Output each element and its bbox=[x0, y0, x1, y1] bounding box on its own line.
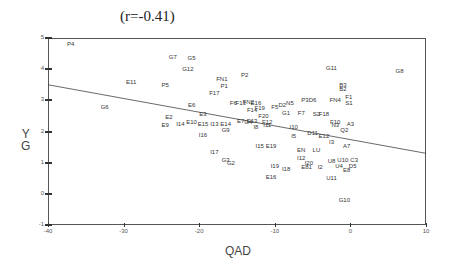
data-point-label: E16 bbox=[266, 174, 277, 180]
y-tick-mark bbox=[45, 131, 52, 133]
data-point-label: I14 bbox=[176, 121, 184, 127]
x-tick-mark bbox=[48, 223, 49, 227]
x-tick-mark bbox=[124, 223, 125, 227]
data-point-label: F18 bbox=[319, 111, 329, 117]
data-point-label: G7 bbox=[169, 54, 177, 60]
data-point-label: FN4 bbox=[330, 97, 341, 103]
data-point-label: U4 bbox=[335, 163, 343, 169]
x-tick-mark bbox=[350, 223, 351, 227]
data-point-label: F7 bbox=[298, 110, 305, 116]
y-tick-label: 0 bbox=[34, 190, 44, 196]
data-point-label: I17 bbox=[210, 149, 218, 155]
y-tick-label: 1 bbox=[34, 159, 44, 165]
y-tick-mark bbox=[45, 193, 52, 195]
x-tick-label: 10 bbox=[416, 228, 436, 234]
data-point-label: I18 bbox=[282, 166, 290, 172]
data-point-label: N5 bbox=[286, 100, 294, 106]
data-point-label: F10 bbox=[330, 119, 340, 125]
y-tick-label: 2 bbox=[34, 128, 44, 134]
data-point-label: E13 bbox=[247, 118, 258, 124]
data-point-label: I16 bbox=[199, 132, 207, 138]
data-point-label: E10 bbox=[186, 119, 197, 125]
data-point-label: E2 bbox=[165, 114, 172, 120]
data-point-label: I5 bbox=[291, 133, 296, 139]
data-point-label: U10 bbox=[337, 157, 348, 163]
y-tick-label: -1 bbox=[34, 221, 44, 227]
data-point-label: G11 bbox=[326, 65, 337, 71]
data-point-label: I3 bbox=[329, 139, 334, 145]
data-point-label: E3 bbox=[199, 111, 206, 117]
y-tick-label: 3 bbox=[34, 96, 44, 102]
data-point-label: I8 bbox=[253, 124, 258, 130]
data-point-label: E6 bbox=[188, 102, 195, 108]
x-tick-label: -10 bbox=[265, 228, 285, 234]
data-point-label: I13 bbox=[210, 121, 218, 127]
data-point-label: E19 bbox=[266, 143, 277, 149]
data-point-label: P1 bbox=[220, 83, 227, 89]
data-point-label: LU bbox=[313, 147, 321, 153]
data-point-label: F1 bbox=[345, 94, 352, 100]
data-point-label: G6 bbox=[101, 104, 109, 110]
data-point-label: A3 bbox=[347, 121, 354, 127]
data-point-label: P3 bbox=[301, 97, 308, 103]
data-point-label: E12 bbox=[319, 133, 330, 139]
data-point-label: G10 bbox=[339, 197, 350, 203]
data-point-label: F5 bbox=[271, 104, 278, 110]
data-point-label: G5 bbox=[188, 55, 196, 61]
regression-line bbox=[0, 0, 450, 267]
y-tick-mark bbox=[45, 99, 52, 101]
y-tick-label: 4 bbox=[34, 65, 44, 71]
data-point-label: E14 bbox=[220, 121, 231, 127]
data-point-label: A7 bbox=[343, 143, 350, 149]
data-point-label: FN1 bbox=[216, 76, 227, 82]
x-tick-label: -30 bbox=[114, 228, 134, 234]
data-point-label: U11 bbox=[326, 175, 337, 181]
data-point-label: E8 bbox=[343, 167, 350, 173]
y-tick-mark bbox=[45, 68, 52, 70]
data-point-label: E11 bbox=[126, 79, 136, 85]
data-point-label: B2 bbox=[339, 86, 346, 92]
x-tick-label: -40 bbox=[38, 228, 58, 234]
x-tick-label: 0 bbox=[340, 228, 360, 234]
data-point-label: F20 bbox=[258, 113, 268, 119]
data-point-label: D11 bbox=[307, 130, 318, 136]
data-point-label: I19 bbox=[271, 163, 279, 169]
y-tick-mark bbox=[45, 162, 52, 164]
data-point-label: E9 bbox=[162, 122, 169, 128]
data-point-label: I2 bbox=[318, 164, 323, 170]
data-point-label: C3 bbox=[350, 157, 358, 163]
x-tick-mark bbox=[426, 223, 427, 227]
data-point-label: F19 bbox=[255, 105, 265, 111]
x-tick-label: -20 bbox=[189, 228, 209, 234]
data-point-label: P2 bbox=[241, 72, 248, 78]
data-point-label: Q2 bbox=[340, 127, 348, 133]
data-point-label: I11 bbox=[263, 122, 271, 128]
y-tick-mark bbox=[45, 37, 52, 39]
data-point-label: S1 bbox=[345, 100, 352, 106]
data-point-label: G12 bbox=[182, 66, 193, 72]
data-point-label: D2 bbox=[279, 102, 287, 108]
data-point-label: D6 bbox=[309, 97, 317, 103]
data-point-label: G2 bbox=[227, 160, 235, 166]
x-tick-mark bbox=[275, 223, 276, 227]
data-point-label: P4 bbox=[67, 41, 74, 47]
data-point-label: G9 bbox=[222, 127, 230, 133]
data-point-label: F17 bbox=[209, 90, 219, 96]
data-point-label: G1 bbox=[282, 110, 290, 116]
data-point-label: P5 bbox=[162, 82, 169, 88]
y-tick-label: 5 bbox=[34, 34, 44, 40]
data-point-label: I15 bbox=[256, 143, 264, 149]
data-point-label: EN bbox=[297, 147, 305, 153]
data-point-label: U8 bbox=[328, 158, 336, 164]
data-point-label: G8 bbox=[396, 68, 404, 74]
x-tick-mark bbox=[199, 223, 200, 227]
data-point-label: E81 bbox=[301, 164, 312, 170]
data-point-label: E15 bbox=[198, 121, 209, 127]
data-point-label: I10 bbox=[290, 124, 298, 130]
